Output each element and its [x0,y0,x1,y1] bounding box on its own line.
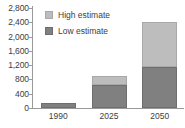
chart-legend: High estimate Low estimate [45,8,110,40]
x-axis-label: 2025 [100,111,119,122]
y-axis-tick-label: 1,200 [8,61,29,70]
x-axis-label: 1990 [49,111,68,122]
legend-item-low-estimate: Low estimate [45,24,110,37]
y-axis-tick-label: 1,600 [8,46,29,55]
y-axis-tick-label: 2,000 [8,32,29,41]
bar-group[interactable] [41,103,76,108]
y-axis-tick-mark [29,65,32,66]
bar-segment-low-estimate[interactable] [92,85,127,108]
x-axis-label: 2050 [150,111,169,122]
bar-segment-high-estimate[interactable] [142,22,177,67]
legend-item-high-estimate: High estimate [45,8,110,21]
y-axis-tick-mark [29,22,32,23]
y-axis-tick-mark [29,108,32,109]
bar-segment-low-estimate[interactable] [41,103,76,108]
y-axis-tick-mark [29,79,32,80]
y-axis-tick-mark [29,51,32,52]
legend-label-low-estimate: Low estimate [58,26,108,36]
x-axis-labels: 199020252050 [33,111,185,125]
y-axis-tick-label: 800 [15,75,29,84]
legend-label-high-estimate: High estimate [58,10,110,20]
bar-group[interactable] [92,76,127,109]
y-axis-tick-mark [29,37,32,38]
bar-segment-low-estimate[interactable] [142,67,177,108]
y-axis-tick-mark [29,8,32,9]
bar-segment-high-estimate[interactable] [92,76,127,86]
y-axis-tick-label: 2,800 [8,4,29,13]
y-axis-tick-labels: 2,800 2,400 2,000 1,600 1,200 800 400 0 [0,0,31,128]
bar-group[interactable] [142,22,177,108]
y-axis-tick-label: 2,400 [8,18,29,27]
chart-container: 2,800 2,400 2,000 1,600 1,200 800 400 0 … [0,0,185,128]
y-axis-tick-label: 400 [15,89,29,98]
legend-swatch-low-estimate-icon [45,27,53,35]
y-axis-tick-mark [29,94,32,95]
legend-swatch-high-estimate-icon [45,11,53,19]
